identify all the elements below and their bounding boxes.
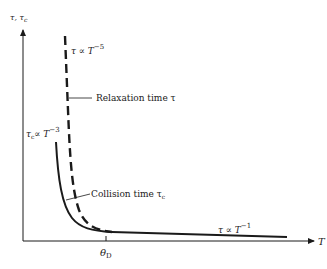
- x-axis-label: T: [318, 236, 326, 247]
- collision-power-law-label: τc∝ T−3: [26, 126, 60, 140]
- y-axis-label: τ, τc: [10, 13, 28, 23]
- theta-d-label: θD: [100, 247, 112, 260]
- relaxation-time-label: Relaxation time τ: [96, 93, 176, 103]
- relaxation-power-law-label: τ ∝ T−5: [71, 43, 104, 56]
- relaxation-time-curve: [65, 36, 112, 232]
- collision-leader-line: [66, 194, 90, 200]
- collision-time-label: Collision time τc: [91, 189, 166, 200]
- high-temp-power-law-label: τ ∝ T−1: [218, 222, 251, 235]
- diagram-canvas: τ, τc T θD τ ∝ T−5 Relaxation time τ τc∝…: [0, 0, 327, 269]
